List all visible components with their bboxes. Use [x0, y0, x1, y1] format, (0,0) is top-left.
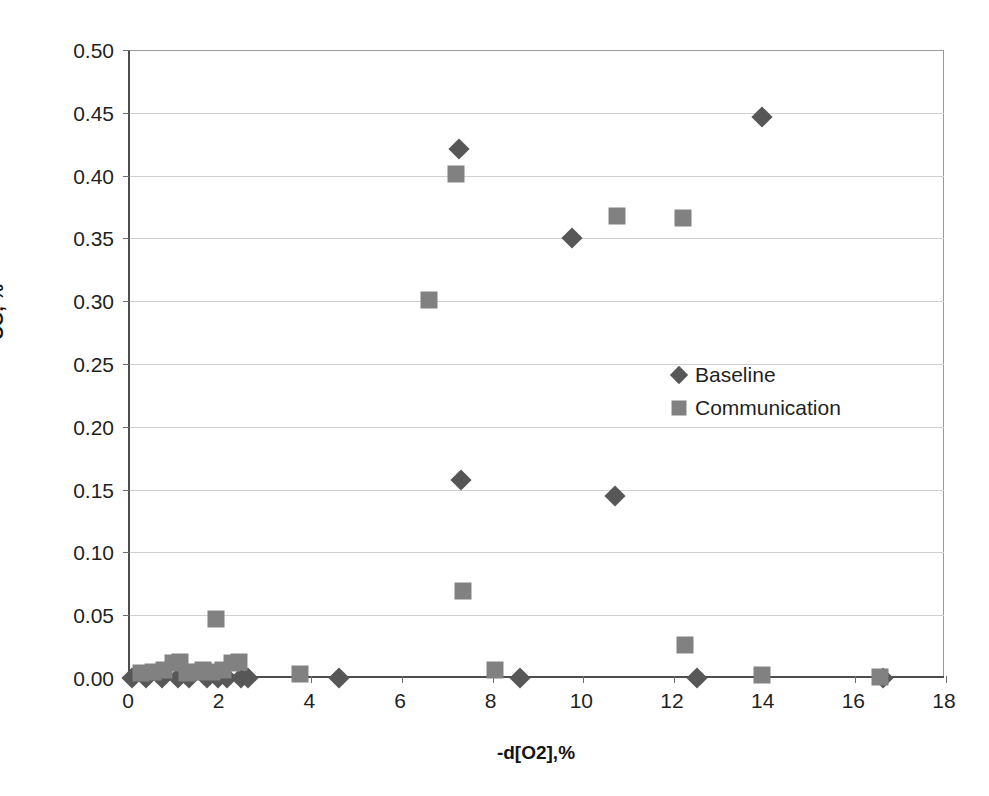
y-axis-tick	[123, 238, 130, 239]
y-axis-tick	[123, 552, 130, 553]
data-point-baseline	[604, 485, 625, 506]
data-point-communication	[609, 207, 626, 224]
y-axis-tick	[123, 301, 130, 302]
data-point-communication	[230, 653, 247, 670]
x-axis-tick	[855, 676, 856, 683]
y-axis-tick-label: 0.00	[73, 668, 114, 689]
data-point-communication	[677, 637, 694, 654]
data-point-communication	[872, 668, 889, 685]
data-point-baseline	[450, 469, 471, 490]
y-axis-tick	[123, 364, 130, 365]
x-axis-tick-labels: 024681012141618	[128, 690, 944, 720]
x-axis-tick	[674, 676, 675, 683]
scatter-chart: 0.000.050.100.150.200.250.300.350.400.45…	[0, 0, 989, 796]
x-axis-tick-label: 4	[303, 690, 315, 712]
plot-top-border	[130, 50, 944, 51]
data-point-communication	[292, 666, 309, 683]
y-axis-tick-label: 0.50	[73, 40, 114, 61]
y-axis-tick	[123, 50, 130, 51]
data-point-communication	[208, 610, 225, 627]
legend-item-communication: Communication	[668, 391, 898, 424]
gridline	[130, 113, 944, 114]
y-axis-tick-label: 0.10	[73, 542, 114, 563]
plot-right-border	[943, 50, 944, 676]
y-axis-tick-label: 0.35	[73, 228, 114, 249]
x-axis-tick	[946, 676, 947, 683]
x-axis-tick-label: 6	[394, 690, 406, 712]
gridline	[130, 552, 944, 553]
x-axis-tick	[402, 676, 403, 683]
y-axis-tick	[123, 113, 130, 114]
x-axis-tick	[311, 676, 312, 683]
legend-item-baseline: Baseline	[668, 358, 898, 391]
data-point-communication	[486, 662, 503, 679]
y-axis-tick	[123, 176, 130, 177]
x-axis-tick-label: 2	[213, 690, 225, 712]
gridline	[130, 615, 944, 616]
x-axis-tick-label: 16	[842, 690, 865, 712]
y-axis-tick-label: 0.25	[73, 354, 114, 375]
x-axis-tick-label: 18	[932, 690, 955, 712]
gridline	[130, 301, 944, 302]
y-axis-tick-label: 0.45	[73, 103, 114, 124]
x-axis-tick-label: 14	[751, 690, 774, 712]
x-axis-title: -d[O2],%	[128, 742, 944, 764]
x-axis-tick-label: 8	[485, 690, 497, 712]
x-axis-tick	[583, 676, 584, 683]
y-axis-tick-label: 0.30	[73, 291, 114, 312]
gridline	[130, 490, 944, 491]
gridline	[130, 176, 944, 177]
y-axis-tick	[123, 490, 130, 491]
y-axis-tick-labels: 0.000.050.100.150.200.250.300.350.400.45…	[0, 50, 114, 678]
x-axis-tick-label: 12	[660, 690, 683, 712]
baseline-diamond-icon	[668, 364, 690, 386]
x-axis-tick-label: 0	[122, 690, 134, 712]
data-point-baseline	[328, 667, 349, 688]
data-point-baseline	[752, 106, 773, 127]
y-axis-tick-label: 0.20	[73, 417, 114, 438]
data-point-baseline	[509, 667, 530, 688]
x-axis-tick-label: 10	[570, 690, 593, 712]
y-axis-title: CO, %	[0, 284, 8, 340]
data-point-baseline	[448, 139, 469, 160]
gridline	[130, 427, 944, 428]
data-point-baseline	[561, 228, 582, 249]
y-axis-tick-label: 0.15	[73, 480, 114, 501]
data-point-baseline	[686, 667, 707, 688]
data-point-communication	[675, 210, 692, 227]
y-axis-tick	[123, 427, 130, 428]
y-axis-tick-label: 0.05	[73, 605, 114, 626]
y-axis-tick-label: 0.40	[73, 166, 114, 187]
y-axis-tick	[123, 615, 130, 616]
data-point-communication	[448, 166, 465, 183]
communication-square-icon	[668, 397, 690, 419]
data-point-communication	[421, 291, 438, 308]
legend-item-label: Communication	[695, 397, 841, 418]
gridline	[130, 238, 944, 239]
data-point-communication	[455, 583, 472, 600]
data-point-communication	[754, 667, 771, 684]
legend-item-label: Baseline	[695, 364, 776, 385]
chart-legend: Baseline Communication	[668, 358, 898, 424]
